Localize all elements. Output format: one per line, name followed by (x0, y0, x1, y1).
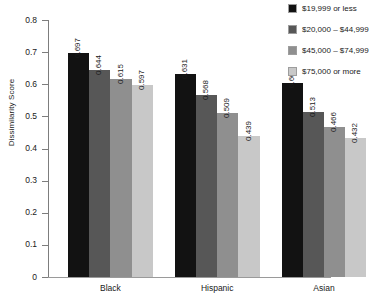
bar (303, 112, 324, 277)
x-axis-category-label: Asian (262, 283, 387, 293)
bar-value-label: 0.432 (351, 123, 359, 143)
bar-value-label: 0.697 (74, 38, 82, 58)
bar (324, 127, 345, 277)
bar-value-label: 0.439 (245, 121, 253, 141)
bar-value-label: 0.513 (309, 97, 317, 117)
bar (110, 79, 131, 277)
bar (196, 95, 217, 277)
legend-item: $19,999 or less (288, 4, 391, 25)
bar-value-label: 0.631 (181, 59, 189, 79)
bar (217, 113, 238, 277)
legend-label: $75,000 or more (302, 67, 361, 76)
legend-swatch (288, 46, 297, 55)
dissimilarity-score-bar-chart: Dissimilarity Score 0.80.70.60.50.40.30.… (0, 0, 391, 300)
legend-item: $45,000 – $74,999 (288, 46, 391, 67)
legend-label: $20,000 – $44,999 (302, 25, 369, 34)
bar-value-label: 0.568 (202, 79, 210, 99)
bar (238, 136, 259, 277)
bar-value-label: 0.644 (95, 55, 103, 75)
bar (89, 70, 110, 277)
legend-swatch (288, 4, 297, 13)
bar-value-label: 0.597 (138, 70, 146, 90)
legend-item: $20,000 – $44,999 (288, 25, 391, 46)
bar-value-label: 0.615 (117, 64, 125, 84)
bar (282, 83, 303, 277)
chart-legend: $19,999 or less$20,000 – $44,999$45,000 … (288, 4, 391, 88)
legend-swatch (288, 67, 297, 76)
bar (345, 138, 366, 277)
bar-value-label: 0.466 (330, 112, 338, 132)
legend-item: $75,000 or more (288, 67, 391, 88)
legend-label: $19,999 or less (302, 4, 357, 13)
legend-label: $45,000 – $74,999 (302, 46, 369, 55)
bar-value-label: 0.509 (223, 98, 231, 118)
bar (175, 74, 196, 277)
bar (68, 53, 89, 277)
legend-swatch (288, 25, 297, 34)
bar (132, 85, 153, 277)
